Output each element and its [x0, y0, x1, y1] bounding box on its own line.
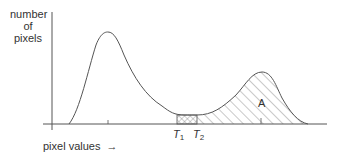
threshold-band-hatch-2: [177, 115, 197, 124]
histogram-diagram: T1 T2 A: [0, 0, 338, 159]
region-a-hatch: [197, 72, 308, 124]
t1-label: T1: [173, 128, 185, 142]
t2-label: T2: [193, 128, 205, 142]
region-a-label: A: [258, 97, 266, 109]
